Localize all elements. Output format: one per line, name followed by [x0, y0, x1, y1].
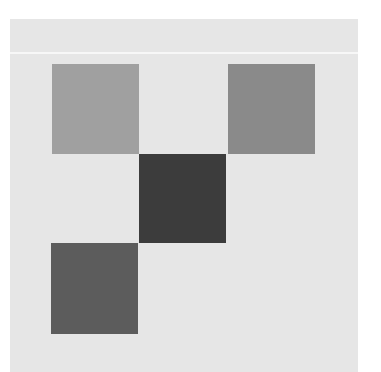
- square-bottom-left: [51, 243, 138, 334]
- canvas: [0, 0, 381, 372]
- header-divider: [10, 52, 358, 54]
- square-top-right: [228, 64, 315, 154]
- square-top-left: [52, 64, 139, 154]
- square-center: [139, 154, 226, 243]
